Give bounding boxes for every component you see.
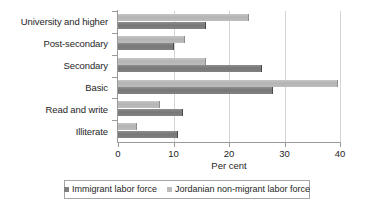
x-tick-label: 0 (115, 148, 120, 160)
bar-jordanian-non-migrant (118, 58, 206, 65)
legend-entry-jordanian: Jordanian non-migrant labor force (167, 184, 310, 195)
y-tick-mark (112, 11, 117, 12)
legend-label: Jordanian non-migrant labor force (175, 184, 310, 195)
y-tick-mark (112, 98, 117, 99)
bar-group (118, 55, 340, 77)
bar-group (118, 11, 340, 33)
y-tick-mark (112, 33, 117, 34)
bar-group (118, 98, 340, 120)
bar-chart-figure: University and higher Post-secondary Sec… (0, 0, 373, 207)
legend-entry-immigrant: Immigrant labor force (64, 184, 157, 195)
category-axis-labels: University and higher Post-secondary Sec… (0, 11, 112, 142)
category-label: Read and write (46, 104, 113, 115)
bar-jordanian-non-migrant (118, 36, 185, 43)
bar-immigrant (118, 43, 174, 50)
bars-layer (118, 11, 340, 142)
bar-group (118, 120, 340, 142)
x-tick-mark (229, 143, 230, 147)
bar-immigrant (118, 22, 206, 29)
x-tick-label: 30 (279, 148, 290, 160)
category-label: Secondary (63, 60, 112, 71)
chart-legend: Immigrant labor force Jordanian non-migr… (64, 180, 310, 199)
x-tick-mark (118, 143, 119, 147)
x-axis-title: Per cent (118, 160, 340, 171)
plot-area (118, 11, 340, 142)
legend-label: Immigrant labor force (72, 184, 157, 195)
plot-region: University and higher Post-secondary Sec… (0, 0, 373, 150)
y-axis-line (117, 10, 118, 143)
y-tick-mark (112, 77, 117, 78)
bar-immigrant (118, 109, 183, 116)
bar-jordanian-non-migrant (118, 101, 160, 108)
gridline (340, 11, 341, 142)
bar-jordanian-non-migrant (118, 80, 338, 87)
category-label: Illiterate (76, 126, 112, 137)
x-tick-mark (174, 143, 175, 147)
y-tick-mark (112, 120, 117, 121)
bar-immigrant (118, 65, 262, 72)
bar-immigrant (118, 87, 273, 94)
category-label: University and higher (21, 16, 112, 27)
category-label: Basic (85, 82, 112, 93)
bar-group (118, 77, 340, 99)
bar-immigrant (118, 131, 178, 138)
y-tick-mark (112, 55, 117, 56)
bar-jordanian-non-migrant (118, 123, 137, 130)
legend-swatch-icon (64, 187, 69, 192)
x-tick-label: 20 (224, 148, 235, 160)
x-tick-label: 10 (168, 148, 179, 160)
x-tick-mark (285, 143, 286, 147)
x-tick-label: 40 (335, 148, 346, 160)
bar-group (118, 33, 340, 55)
bar-jordanian-non-migrant (118, 14, 249, 21)
category-label: Post-secondary (43, 38, 112, 49)
x-tick-mark (340, 143, 341, 147)
legend-swatch-icon (167, 187, 172, 192)
